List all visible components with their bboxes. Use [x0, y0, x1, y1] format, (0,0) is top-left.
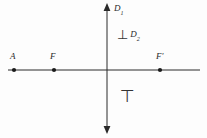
point-marker-a [12, 68, 16, 72]
point-label-f-text: F [50, 51, 56, 61]
vertical-axis-arrow-up-icon [104, 3, 111, 11]
point-marker-f [52, 68, 56, 72]
point-label-a-text: A [10, 51, 16, 61]
point-marker-f-prime [158, 68, 162, 72]
vertical-axis-arrow-down-icon [104, 126, 111, 134]
annotation-label-d2: D2 [130, 30, 140, 41]
point-label-f-prime: F' [156, 52, 163, 61]
point-label-a: A [10, 52, 16, 61]
annotation-label-d2-subscript: 2 [137, 36, 140, 42]
point-label-f-prime-mark: ' [162, 51, 164, 61]
annotation-label-d2-base: D [130, 29, 137, 39]
axis-label-d1-base: D [114, 3, 121, 13]
geometry-diagram-canvas: D1 ⊥ D2 ⊤ A F F' [0, 0, 207, 138]
axis-label-d1: D1 [114, 4, 124, 15]
figure-svg [0, 0, 207, 138]
perpendicular-annotation-group: ⊥ D2 [117, 28, 140, 41]
point-label-f: F [50, 52, 56, 61]
axis-label-d1-subscript: 1 [121, 10, 124, 16]
top-symbol: ⊤ [120, 88, 135, 105]
perpendicular-symbol: ⊥ [117, 28, 128, 41]
